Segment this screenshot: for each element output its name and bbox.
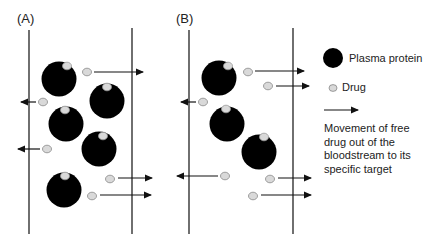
free-drug-moving-out <box>177 172 230 180</box>
legend-protein-icon <box>323 48 343 68</box>
plasma-protein-bound <box>42 62 77 97</box>
free-drug-moving-out <box>83 68 144 76</box>
plasma-protein-bound <box>49 106 84 141</box>
free-drug-moving-out <box>21 98 48 106</box>
free-drug-moving-out <box>244 68 305 76</box>
free-drug-moving-out <box>88 192 152 200</box>
legend-arrow-description: Movement of free drug out of the bloodst… <box>324 122 411 176</box>
legend-drug-label: Drug <box>342 81 366 95</box>
panel-b-label: (B) <box>176 11 193 26</box>
panel-a-label: (A) <box>17 11 34 26</box>
free-drug-moving-out <box>106 175 153 183</box>
plasma-protein-bound <box>242 133 277 169</box>
drug-protein-binding-diagram <box>0 0 429 241</box>
plasma-protein-bound <box>210 105 245 141</box>
legend-plasma-protein-label: Plasma protein <box>349 52 422 66</box>
free-drug-moving-out <box>181 98 208 106</box>
panel-a <box>18 28 152 234</box>
plasma-protein-bound <box>90 83 125 118</box>
legend-drug-icon <box>329 85 337 92</box>
free-drug-moving-out <box>18 145 52 153</box>
panel-b <box>177 28 311 234</box>
plasma-protein-bound <box>47 172 82 207</box>
free-drug-moving-out <box>266 175 312 183</box>
plasma-protein-bound <box>202 61 237 96</box>
free-drug-moving-out <box>264 82 310 90</box>
free-drug-moving-out <box>249 192 312 200</box>
plasma-protein-bound <box>82 132 117 167</box>
